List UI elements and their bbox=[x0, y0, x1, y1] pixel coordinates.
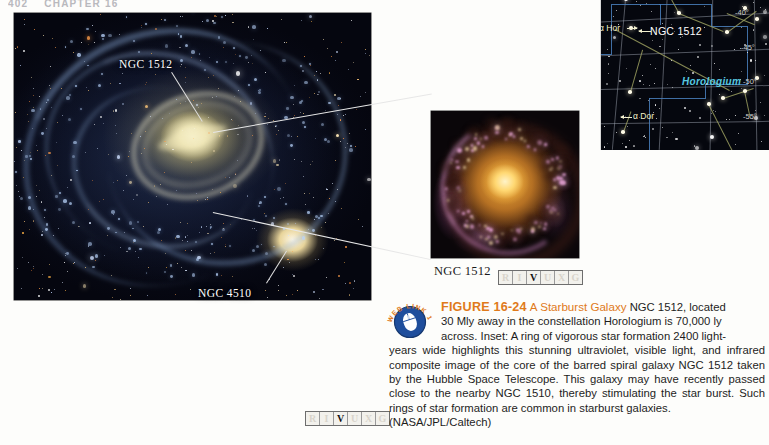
page-folio: 402 bbox=[8, 0, 28, 8]
chart-star bbox=[643, 84, 644, 85]
star bbox=[32, 128, 33, 129]
spiral-arm-knot bbox=[229, 245, 231, 247]
star bbox=[33, 209, 34, 210]
star bbox=[322, 289, 323, 290]
star bbox=[193, 138, 194, 139]
star bbox=[187, 235, 188, 236]
spiral-arm-knot bbox=[321, 123, 324, 126]
star bbox=[303, 113, 304, 114]
chart-star bbox=[755, 60, 756, 61]
spiral-arm-knot bbox=[133, 40, 135, 42]
star bbox=[50, 88, 51, 89]
spiral-arm-knot bbox=[185, 44, 188, 47]
chart-pointer-alpha-dor bbox=[621, 117, 632, 118]
spiral-arm-knot bbox=[126, 16, 128, 18]
spiral-arm-knot bbox=[55, 195, 58, 198]
chart-label-alpha-dor: α Dor bbox=[633, 111, 654, 121]
chart-star bbox=[690, 65, 691, 66]
star bbox=[238, 90, 239, 91]
star bbox=[208, 77, 209, 78]
star bbox=[274, 189, 275, 190]
spiral-arm-knot bbox=[133, 239, 136, 242]
spiral-arm-knot bbox=[196, 258, 199, 261]
star bbox=[347, 143, 348, 144]
star bbox=[185, 270, 186, 271]
spiral-arm-knot bbox=[65, 46, 67, 48]
chart-dec-tick--40: -40° bbox=[735, 8, 749, 17]
star bbox=[151, 53, 152, 54]
star bbox=[362, 226, 363, 227]
star bbox=[14, 161, 15, 162]
star bbox=[182, 240, 183, 241]
spiral-arm-knot bbox=[92, 266, 95, 269]
constellation-figure-line bbox=[630, 50, 643, 93]
star bbox=[314, 75, 315, 76]
star bbox=[53, 235, 54, 236]
chart-star bbox=[654, 83, 655, 84]
chart-star bbox=[689, 110, 691, 112]
chart-star bbox=[760, 102, 761, 103]
star bbox=[41, 234, 43, 236]
star bbox=[81, 42, 82, 43]
star bbox=[335, 160, 336, 161]
star bbox=[21, 150, 22, 151]
star bbox=[133, 199, 134, 200]
spiral-arm-knot bbox=[46, 223, 49, 226]
star bbox=[21, 288, 22, 289]
spiral-arm-knot bbox=[287, 223, 289, 225]
star bbox=[150, 116, 151, 117]
spiral-arm-knot bbox=[146, 272, 148, 274]
star bbox=[33, 88, 34, 89]
spiral-arm-knot bbox=[210, 226, 212, 228]
star bbox=[304, 193, 305, 194]
star bbox=[365, 129, 366, 130]
main-galaxy-photo bbox=[14, 13, 371, 300]
constellation-boundary bbox=[611, 4, 661, 25]
star bbox=[213, 75, 214, 76]
star bbox=[116, 133, 117, 134]
star bbox=[276, 134, 277, 135]
star bbox=[340, 141, 341, 142]
star bbox=[256, 230, 257, 231]
star bbox=[117, 180, 118, 181]
star bbox=[236, 71, 240, 75]
star bbox=[55, 47, 56, 48]
star bbox=[172, 149, 173, 150]
chart-star bbox=[750, 59, 752, 61]
star bbox=[148, 267, 149, 268]
chart-star bbox=[719, 94, 720, 95]
star bbox=[297, 136, 298, 137]
star bbox=[94, 124, 95, 125]
chart-star bbox=[699, 44, 701, 46]
spiral-arm-knot bbox=[76, 170, 78, 172]
wavelength-cell-g: G bbox=[569, 271, 582, 284]
star bbox=[187, 223, 188, 224]
chart-label-ngc-1512: NGC 1512 bbox=[650, 25, 702, 37]
star bbox=[265, 113, 266, 114]
spiral-arm-knot bbox=[95, 254, 99, 258]
star bbox=[193, 100, 194, 101]
chart-star bbox=[652, 128, 654, 130]
star bbox=[117, 155, 121, 159]
spiral-arm-knot bbox=[264, 196, 266, 198]
star bbox=[190, 289, 191, 290]
star-forming-knot bbox=[457, 210, 459, 212]
star bbox=[154, 185, 156, 187]
star bbox=[148, 202, 149, 203]
star bbox=[73, 52, 74, 53]
spiral-arm-knot bbox=[15, 171, 17, 173]
star bbox=[273, 159, 277, 163]
dust-patch bbox=[497, 241, 506, 247]
star bbox=[48, 152, 50, 154]
chart-label-horologium: Horologium bbox=[682, 76, 741, 87]
spiral-arm-knot bbox=[258, 91, 262, 95]
star bbox=[325, 222, 326, 223]
star bbox=[194, 128, 195, 129]
star bbox=[294, 159, 295, 160]
chart-star bbox=[764, 115, 765, 116]
spiral-arm-knot bbox=[178, 33, 179, 34]
star bbox=[285, 183, 286, 184]
chart-dec-tick--55: -55° bbox=[743, 112, 757, 121]
star bbox=[191, 250, 192, 251]
star bbox=[18, 191, 19, 192]
